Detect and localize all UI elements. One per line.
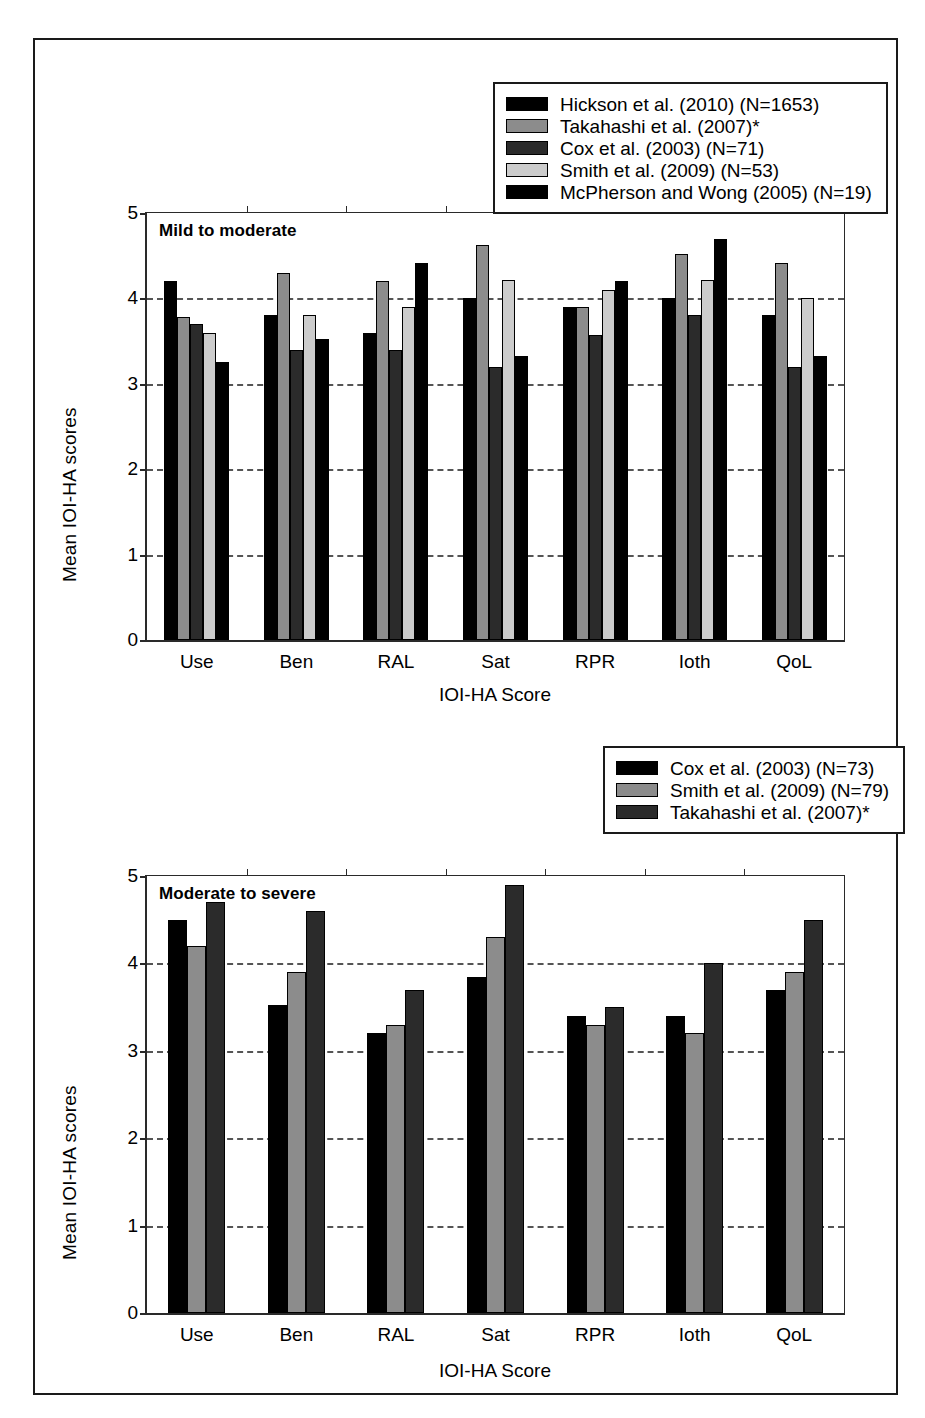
- chart-panel-moderate-to-severe: Mean IOI-HA scores Moderate to severe 01…: [35, 730, 900, 1390]
- legend-swatch-icon: [506, 163, 548, 177]
- y-tick-mark: [140, 298, 147, 300]
- x-tick-label-ral: RAL: [377, 651, 414, 673]
- x-tick-label-qol: QoL: [776, 651, 812, 673]
- bar: [376, 281, 389, 640]
- top-axis-tick: [346, 869, 347, 876]
- bar: [463, 298, 476, 640]
- bar: [685, 1033, 704, 1313]
- legend-label: Takahashi et al. (2007)*: [560, 117, 760, 136]
- y-tick-label: 4: [127, 287, 138, 309]
- bar: [402, 307, 415, 640]
- bar: [386, 1025, 405, 1313]
- y-tick-mark: [140, 469, 147, 471]
- legend-item: Cox et al. (2003) (N=71): [506, 137, 872, 159]
- top-axis-tick: [247, 206, 248, 213]
- legend-item: Hickson et al. (2010) (N=1653): [506, 93, 872, 115]
- top-axis-tick: [247, 869, 248, 876]
- bar: [576, 307, 589, 640]
- bar: [476, 245, 489, 640]
- bar: [814, 356, 827, 640]
- legend-item: McPherson and Wong (2005) (N=19): [506, 181, 872, 203]
- y-tick-mark: [140, 1138, 147, 1140]
- bar: [502, 280, 515, 640]
- legend-label: McPherson and Wong (2005) (N=19): [560, 183, 872, 202]
- bar: [389, 350, 402, 640]
- legend-item: Cox et al. (2003) (N=73): [616, 757, 889, 779]
- bar: [563, 307, 576, 640]
- bar: [206, 902, 225, 1313]
- x-tick-label-qol: QoL: [776, 1324, 812, 1346]
- bar: [801, 298, 814, 640]
- bar: [316, 339, 329, 640]
- legend: Hickson et al. (2010) (N=1653)Takahashi …: [493, 82, 888, 214]
- bar-group-use: [168, 876, 225, 1313]
- bar: [405, 990, 424, 1313]
- x-tick-label-rpr: RPR: [575, 1324, 615, 1346]
- x-tick-label-use: Use: [180, 1324, 214, 1346]
- bar: [177, 317, 190, 640]
- bar: [775, 263, 788, 640]
- bar: [216, 362, 229, 640]
- top-axis-tick: [446, 206, 447, 213]
- legend-swatch-icon: [506, 141, 548, 155]
- bar-group-ral: [367, 876, 424, 1313]
- x-tick-label-ioth: Ioth: [679, 651, 711, 673]
- bar: [662, 298, 675, 640]
- top-axis-tick: [346, 206, 347, 213]
- y-axis-title: Mean IOI-HA scores: [59, 407, 81, 582]
- bar: [467, 977, 486, 1313]
- y-tick-label: 5: [127, 865, 138, 887]
- bar: [567, 1016, 586, 1313]
- legend-label: Takahashi et al. (2007)*: [670, 803, 870, 822]
- bar: [615, 281, 628, 640]
- y-tick-label: 2: [127, 1127, 138, 1149]
- legend-item: Takahashi et al. (2007)*: [616, 801, 889, 823]
- legend-swatch-icon: [506, 185, 548, 199]
- bar: [415, 263, 428, 640]
- legend-swatch-icon: [616, 783, 658, 797]
- bar-group-qol: [762, 213, 827, 640]
- x-tick-label-ben: Ben: [279, 1324, 313, 1346]
- x-axis-title: IOI-HA Score: [145, 684, 845, 706]
- bar-group-sat: [463, 213, 528, 640]
- legend-item: Smith et al. (2009) (N=79): [616, 779, 889, 801]
- bar: [766, 990, 785, 1313]
- legend-label: Smith et al. (2009) (N=53): [560, 161, 779, 180]
- bar: [290, 350, 303, 640]
- panel-tag: Mild to moderate: [159, 221, 297, 241]
- bar: [602, 290, 615, 640]
- top-axis-tick: [545, 869, 546, 876]
- bar: [277, 273, 290, 640]
- x-tick-label-ben: Ben: [279, 651, 313, 673]
- bar: [505, 885, 524, 1313]
- bar: [168, 920, 187, 1313]
- bar: [187, 946, 206, 1313]
- bar: [489, 367, 502, 640]
- y-tick-mark: [140, 1051, 147, 1053]
- bar: [785, 972, 804, 1313]
- bar: [203, 333, 216, 640]
- bar-group-ben: [264, 213, 329, 640]
- bar: [589, 335, 602, 640]
- y-tick-label: 1: [127, 544, 138, 566]
- bar-group-use: [164, 213, 229, 640]
- y-tick-mark: [140, 213, 147, 215]
- top-axis-tick: [744, 869, 745, 876]
- bar: [804, 920, 823, 1313]
- bar: [688, 315, 701, 640]
- bar-group-ioth: [662, 213, 727, 640]
- bar: [486, 937, 505, 1313]
- bar: [605, 1007, 624, 1313]
- y-tick-label: 0: [127, 629, 138, 651]
- bar-group-rpr: [567, 876, 624, 1313]
- bar: [675, 254, 688, 640]
- x-tick-label-ioth: Ioth: [679, 1324, 711, 1346]
- bar: [306, 911, 325, 1313]
- bar: [303, 315, 316, 640]
- bar: [704, 963, 723, 1313]
- bar: [586, 1025, 605, 1313]
- y-tick-mark: [140, 1226, 147, 1228]
- y-tick-mark: [140, 384, 147, 386]
- y-tick-label: 5: [127, 202, 138, 224]
- bar: [367, 1033, 386, 1313]
